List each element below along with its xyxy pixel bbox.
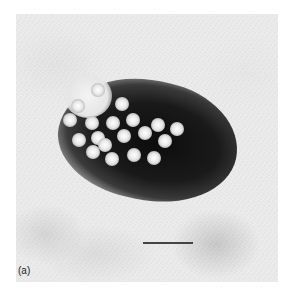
virus-particle [138,126,152,140]
virus-particle [158,134,172,148]
virus-particle [170,122,184,136]
virus-particle [126,113,140,127]
virus-particle [98,138,112,152]
virus-particle [115,97,129,111]
virus-particle [151,118,165,132]
virus-particle [72,133,86,147]
virus-particle [106,116,120,130]
light-debris [64,74,112,118]
virus-particle [127,148,141,162]
virus-particle [85,116,99,130]
virus-particle [117,129,131,143]
virus-particle [91,83,105,97]
virus-particle [63,113,77,127]
virus-particle [105,152,119,166]
scale-bar [143,242,193,244]
panel-label: (a) [18,265,30,276]
virus-particle [147,151,161,165]
virus-particle [71,99,85,113]
